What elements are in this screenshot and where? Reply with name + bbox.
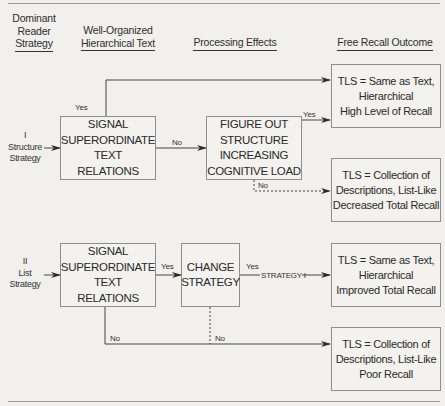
edge-label-yes-top: Yes: [75, 103, 87, 112]
edge-label-no-signal-2: No: [110, 334, 120, 343]
edge-label-strategy-i: STRATEGY I: [261, 271, 306, 280]
outcome-decreased-recall: TLS = Collection of Descriptions, List-L…: [331, 158, 441, 222]
list-strategy-label: II List Strategy: [4, 256, 46, 291]
signal-superordinate-box-list: SIGNAL SUPERORDINATE TEXT RELATIONS: [60, 243, 156, 307]
edge-label-no-figure: No: [258, 181, 268, 190]
outcome-improved-recall: TLS = Same as Text, Hierarchical Improve…: [331, 243, 441, 307]
edge-label-yes-signal-2: Yes: [161, 262, 173, 271]
change-strategy-box: CHANGE STRATEGY: [181, 243, 240, 307]
edge-label-yes-change: Yes: [246, 262, 258, 271]
edge-label-no-change: No: [215, 334, 225, 343]
outcome-poor-recall: TLS = Collection of Descriptions, List-L…: [331, 327, 441, 391]
edge-label-no-1: No: [172, 138, 182, 147]
structure-strategy-label: I Structure Strategy: [4, 130, 46, 165]
edge-label-yes-figure: Yes: [303, 110, 315, 119]
outcome-high-recall: TLS = Same as Text, Hierarchical High Le…: [331, 64, 441, 128]
signal-superordinate-box-structure: SIGNAL SUPERORDINATE TEXT RELATIONS: [60, 116, 156, 180]
figure-out-structure-box: FIGURE OUT STRUCTURE INCREASING COGNITIV…: [206, 116, 302, 180]
